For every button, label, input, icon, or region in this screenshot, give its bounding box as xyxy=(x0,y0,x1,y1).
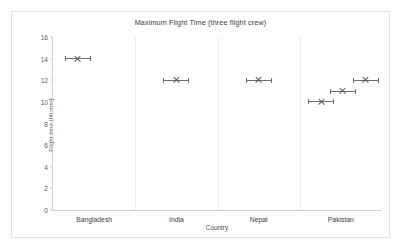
error-bar-cap-right xyxy=(333,99,334,104)
x-axis-tick-label: Pakistan xyxy=(328,216,354,223)
y-axis-tick-mark xyxy=(50,166,53,167)
error-bar-cap-left xyxy=(65,56,66,61)
data-point-marker[interactable] xyxy=(330,87,356,96)
error-bar-cap-left xyxy=(330,89,331,94)
data-point-marker[interactable] xyxy=(246,76,272,85)
x-marker-icon xyxy=(318,98,325,105)
error-bar-cap-left xyxy=(246,78,247,83)
chart-title: Maximum Flight Time (three flight crew) xyxy=(12,18,389,27)
x-axis-tick-label: Bangladesh xyxy=(76,216,112,223)
chart-frame: Maximum Flight Time (three flight crew) … xyxy=(11,11,390,238)
error-bar-cap-right xyxy=(355,89,356,94)
error-bar-cap-right xyxy=(378,78,379,83)
y-axis-tick-mark xyxy=(50,188,53,189)
y-axis-tick-mark xyxy=(50,58,53,59)
category-separator xyxy=(218,37,219,210)
error-bar-cap-right xyxy=(188,78,189,83)
category-separator xyxy=(300,37,301,210)
x-marker-icon xyxy=(339,88,346,95)
y-axis-tick-mark xyxy=(50,123,53,124)
x-axis-tick-label: Nepal xyxy=(250,216,268,223)
x-marker-icon xyxy=(255,77,262,84)
y-axis-tick-mark xyxy=(50,145,53,146)
x-marker-icon xyxy=(74,55,81,62)
x-marker-icon xyxy=(362,77,369,84)
data-point-marker[interactable] xyxy=(308,97,334,106)
y-axis-tick-mark xyxy=(50,37,53,38)
category-separator xyxy=(135,37,136,210)
y-axis-tick-mark xyxy=(50,210,53,211)
data-point-marker[interactable] xyxy=(353,76,379,85)
x-axis-title: Country xyxy=(52,224,382,231)
x-axis-tick-label: India xyxy=(169,216,184,223)
data-point-marker[interactable] xyxy=(65,54,91,63)
y-axis-tick-mark xyxy=(50,101,53,102)
x-marker-icon xyxy=(173,77,180,84)
error-bar-cap-right xyxy=(271,78,272,83)
error-bar-cap-left xyxy=(308,99,309,104)
plot-area: 0246810121416BangladeshIndiaNepalPakista… xyxy=(52,37,382,211)
error-bar-cap-right xyxy=(90,56,91,61)
error-bar-cap-left xyxy=(353,78,354,83)
error-bar-cap-left xyxy=(163,78,164,83)
y-axis-tick-mark xyxy=(50,80,53,81)
data-point-marker[interactable] xyxy=(163,76,189,85)
